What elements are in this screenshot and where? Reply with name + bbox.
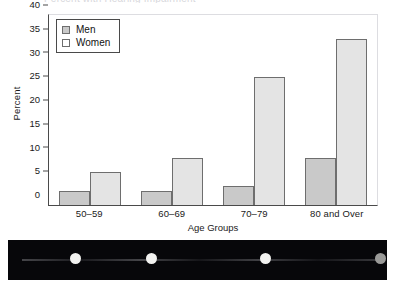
y-tick-40: 40: [24, 0, 49, 10]
legend-label-men: Men: [76, 24, 95, 35]
legend-item-women: Women: [62, 36, 110, 49]
y-tick-20: 20: [24, 94, 49, 105]
y-tick-25: 25: [24, 70, 49, 81]
y-tick-15: 15: [24, 117, 49, 128]
y-tick-label: 35: [24, 22, 40, 33]
x-tick-label: 80 and Over: [296, 208, 379, 219]
y-tick-5: 5: [24, 165, 49, 176]
y-tick-mark: [43, 147, 48, 148]
bar-women: [336, 39, 367, 205]
bar-women: [254, 77, 285, 205]
y-tick-label: 15: [24, 117, 40, 128]
men-swatch-icon: [62, 26, 70, 34]
filmstrip-band: [8, 240, 387, 280]
y-tick-mark: [43, 123, 48, 124]
x-axis-ticks: 50–5960–6970–7980 and Over: [48, 208, 378, 219]
bar-women: [172, 158, 203, 206]
x-tick-label: 60–69: [131, 208, 214, 219]
y-tick-label: 10: [24, 141, 40, 152]
legend-item-men: Men: [62, 23, 110, 36]
y-tick-mark: [43, 99, 48, 100]
chart-legend: Men Women: [56, 19, 120, 53]
bar-group: [131, 15, 213, 205]
y-tick-mark: [43, 171, 48, 172]
bar-men: [223, 186, 254, 205]
filmstrip-dot-4: [375, 253, 386, 264]
y-tick-label: 0: [24, 189, 40, 200]
bar-group: [295, 15, 377, 205]
bar-women: [90, 172, 121, 205]
y-tick-label: 5: [24, 165, 40, 176]
bar-men: [59, 191, 90, 205]
legend-label-women: Women: [76, 37, 110, 48]
y-tick-label: 20: [24, 94, 40, 105]
y-tick-mark: [43, 52, 48, 53]
y-tick-label: 30: [24, 46, 40, 57]
y-tick-label: 40: [24, 0, 40, 10]
y-tick-mark: [43, 28, 48, 29]
y-tick-label: 25: [24, 70, 40, 81]
filmstrip-dot-1: [70, 253, 81, 264]
y-tick-35: 35: [24, 22, 49, 33]
filmstrip-dot-3: [260, 253, 271, 264]
x-tick-label: 50–59: [48, 208, 131, 219]
y-tick-mark: [43, 76, 48, 77]
x-tick-label: 70–79: [213, 208, 296, 219]
women-swatch-icon: [62, 39, 70, 47]
y-axis-label: Percent: [11, 64, 22, 144]
filmstrip-dot-2: [146, 253, 157, 264]
y-tick-30: 30: [24, 46, 49, 57]
x-axis-label: Age Groups: [48, 222, 378, 233]
y-tick-10: 10: [24, 141, 49, 152]
bar-men: [141, 191, 172, 205]
bar-chart-figure: Percent 0510152025303540 50–5960–6970–79…: [0, 0, 395, 236]
y-tick-mark: [43, 194, 48, 195]
bar-men: [305, 158, 336, 206]
bar-group: [213, 15, 295, 205]
y-tick-0: 0: [24, 189, 49, 200]
y-tick-mark: [43, 4, 48, 5]
